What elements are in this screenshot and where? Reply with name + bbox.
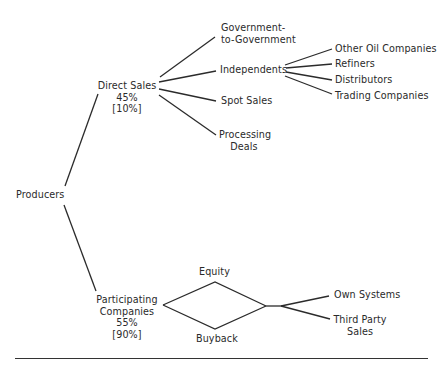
node-direct-sales: Direct Sales 45% [10%]	[97, 80, 157, 115]
third-party-line2: Sales	[333, 326, 387, 338]
direct-sales-label: Direct Sales	[97, 80, 157, 92]
participating-bracket-share: [90%]	[92, 329, 162, 341]
edge-third-party	[281, 306, 330, 319]
edge-indep-refiners	[286, 64, 332, 68]
gov-line1: Government-	[221, 22, 296, 34]
node-other-oil-companies: Other Oil Companies	[335, 43, 437, 55]
edge-direct-processing	[159, 95, 216, 135]
edge-own-systems	[281, 296, 329, 306]
edge-direct-spot	[159, 89, 216, 101]
processing-line2: Deals	[219, 141, 269, 153]
node-producers: Producers	[16, 189, 64, 201]
participating-line1: Participating	[92, 294, 162, 306]
node-distributors: Distributors	[335, 74, 392, 86]
node-trading-companies: Trading Companies	[335, 90, 428, 102]
third-party-line1: Third Party	[333, 314, 387, 326]
edge-producers-direct	[65, 94, 98, 186]
node-processing-deals: Processing Deals	[219, 129, 269, 152]
bottom-rule	[15, 358, 428, 359]
edge-producers-participating	[64, 205, 96, 291]
participating-share: 55%	[92, 317, 162, 329]
direct-sales-bracket-share: [10%]	[97, 103, 157, 115]
gov-line2: to-Government	[221, 34, 296, 46]
edge-diamond-equity	[163, 282, 266, 306]
participating-line2: Companies	[92, 306, 162, 318]
connector-lines	[0, 0, 447, 367]
edge-diamond-buyback	[163, 305, 266, 329]
edge-direct-independents	[159, 71, 216, 82]
node-buyback: Buyback	[196, 333, 238, 345]
edge-indep-other-oil	[285, 49, 332, 65]
node-spot-sales: Spot Sales	[221, 95, 272, 107]
node-own-systems: Own Systems	[334, 289, 400, 301]
direct-sales-share: 45%	[97, 92, 157, 104]
node-refiners: Refiners	[335, 58, 375, 70]
edge-direct-gov	[160, 37, 215, 77]
node-third-party-sales: Third Party Sales	[333, 314, 387, 337]
processing-line1: Processing	[219, 129, 269, 141]
node-participating-companies: Participating Companies 55% [90%]	[92, 294, 162, 340]
node-equity: Equity	[199, 266, 230, 278]
node-independents: Independents	[220, 64, 287, 76]
node-government-to-government: Government- to-Government	[221, 22, 296, 45]
